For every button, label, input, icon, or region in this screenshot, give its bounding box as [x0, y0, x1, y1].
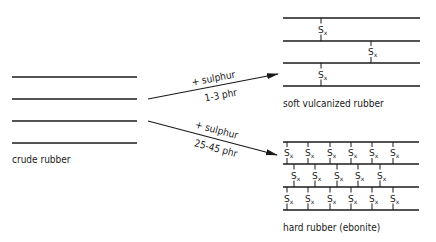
arrow-to-hard: + sulphur25-45 phr [148, 119, 277, 159]
sulfur-crosslink: Sx [305, 142, 315, 164]
svg-text:Sx: Sx [284, 148, 294, 159]
sulfur-crosslink: Sx [369, 142, 379, 164]
sulfur-crosslink: Sx [318, 63, 328, 86]
sulfur-crosslink: Sx [348, 187, 358, 210]
sulfur-crosslink: Sx [334, 164, 344, 187]
phr-label: 1-3 phr [204, 87, 238, 104]
svg-text:Sx: Sx [305, 194, 315, 205]
sulfur-crosslink: Sx [377, 164, 387, 187]
svg-text:Sx: Sx [312, 171, 322, 182]
sulfur-crosslink: Sx [390, 187, 400, 210]
svg-text:Sx: Sx [318, 25, 328, 36]
crude-rubber-group: crude rubber [12, 77, 137, 165]
hard-rubber-label: hard rubber (ebonite) [283, 222, 380, 233]
svg-text:Sx: Sx [355, 171, 365, 182]
sulfur-crosslink: Sx [312, 164, 322, 187]
sulfur-crosslink: Sx [318, 18, 328, 41]
sulfur-crosslink: Sx [284, 187, 294, 210]
svg-text:Sx: Sx [368, 47, 378, 58]
sulfur-crosslink: Sx [291, 164, 301, 187]
sulfur-crosslink: Sx [368, 41, 378, 63]
svg-text:Sx: Sx [291, 171, 301, 182]
svg-text:Sx: Sx [327, 148, 337, 159]
sulfur-crosslink: Sx [327, 142, 337, 164]
sulfur-crosslink: Sx [369, 187, 379, 210]
svg-text:Sx: Sx [334, 171, 344, 182]
svg-text:Sx: Sx [377, 171, 387, 182]
svg-text:Sx: Sx [348, 194, 358, 205]
svg-text:Sx: Sx [369, 148, 379, 159]
svg-text:Sx: Sx [369, 194, 379, 205]
phr-label: 25-45 phr [193, 137, 239, 159]
sulfur-crosslink: Sx [327, 187, 337, 210]
svg-text:Sx: Sx [305, 148, 315, 159]
svg-text:Sx: Sx [284, 194, 294, 205]
sulfur-crosslink: Sx [355, 164, 365, 187]
sulfur-crosslink: Sx [305, 187, 315, 210]
svg-text:Sx: Sx [318, 70, 328, 81]
sulphur-label: + sulphur [194, 119, 240, 141]
svg-text:Sx: Sx [327, 194, 337, 205]
crude-rubber-label: crude rubber [12, 154, 71, 165]
arrow-to-soft: + sulphur1-3 phr [148, 69, 278, 104]
sulfur-crosslink: Sx [284, 142, 294, 164]
reaction-arrows: + sulphur1-3 phr+ sulphur25-45 phr [148, 69, 278, 160]
svg-text:Sx: Sx [348, 148, 358, 159]
soft-vulcanized-rubber-group: soft vulcanized rubberSxSxSx [283, 18, 420, 109]
hard-rubber-group: hard rubber (ebonite)SxSxSxSxSxSxSxSxSxS… [283, 142, 419, 233]
svg-text:Sx: Sx [390, 148, 400, 159]
svg-text:Sx: Sx [390, 194, 400, 205]
soft-rubber-label: soft vulcanized rubber [283, 98, 384, 109]
sulphur-label: + sulphur [191, 69, 237, 88]
vulcanization-diagram: crude rubber + sulphur1-3 phr+ sulphur25… [0, 0, 436, 242]
sulfur-crosslink: Sx [348, 142, 358, 164]
sulfur-crosslink: Sx [390, 142, 400, 164]
